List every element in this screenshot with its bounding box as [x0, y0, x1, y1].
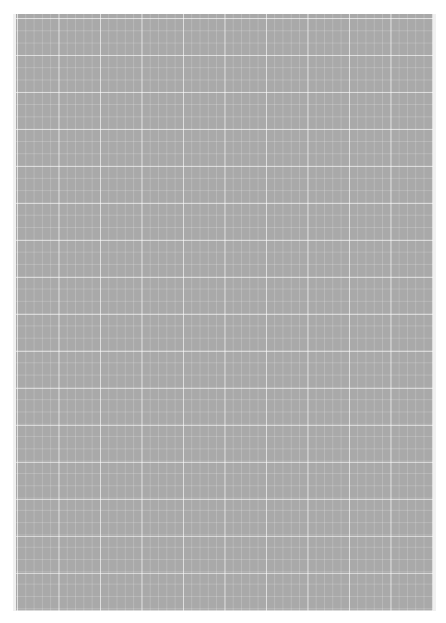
sheet-left-edge	[13, 14, 16, 611]
sheet-right-edge	[433, 14, 436, 611]
grid-paper-sheet	[13, 14, 436, 611]
